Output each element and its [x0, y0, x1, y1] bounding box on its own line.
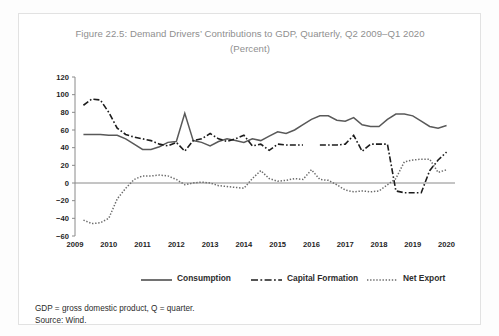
x-tick-label: 2015	[269, 240, 287, 249]
figure-page: Figure 22.5: Demand Drivers’ Contributio…	[0, 0, 499, 336]
x-tick-label: 2010	[100, 240, 117, 249]
footnote-definitions: GDP = gross domestic product, Q = quarte…	[35, 303, 195, 315]
figure-title-line2: (Percent)	[230, 43, 270, 54]
y-tick-label: 60	[61, 126, 69, 135]
legend-swatch-net-export	[367, 278, 398, 281]
y-tick-label: −20	[56, 196, 69, 205]
x-tick-label: 2014	[235, 240, 253, 249]
x-tick-label: 2011	[134, 240, 151, 249]
y-tick-label: 120	[56, 73, 69, 82]
y-tick-label: 0	[65, 179, 69, 188]
x-tick-label: 2012	[168, 240, 185, 249]
y-tick-label: 40	[61, 143, 69, 152]
footnote-source: Source: Wind.	[35, 315, 195, 327]
series-line-capital-formation	[83, 99, 303, 151]
legend-label-net-export: Net Export	[403, 273, 445, 283]
x-tick-label: 2013	[202, 240, 219, 249]
y-tick-label: 100	[56, 90, 69, 99]
x-tick-label: 2018	[371, 240, 388, 249]
series-line-consumption	[83, 113, 446, 149]
legend-swatch-consumption	[141, 278, 172, 281]
x-tick-label: 2019	[404, 240, 421, 249]
y-tick-label: 20	[61, 161, 69, 170]
figure-title: Figure 22.5: Demand Drivers’ Contributio…	[35, 27, 465, 56]
legend-label-consumption: Consumption	[177, 273, 231, 283]
series-line-capital-formation	[320, 135, 447, 192]
chart-svg: −60−40−200204060801001202009201020112012…	[31, 67, 471, 262]
x-tick-label: 2016	[303, 240, 320, 249]
chart-legend: Consumption Capital Formation Net Export	[35, 272, 467, 290]
legend-swatch-capital-formation	[251, 278, 282, 281]
figure-card: Figure 22.5: Demand Drivers’ Contributio…	[18, 13, 481, 325]
chart-plot-area: −60−40−200204060801001202009201020112012…	[31, 67, 471, 262]
x-tick-label: 2017	[337, 240, 354, 249]
figure-title-line1: Figure 22.5: Demand Drivers’ Contributio…	[75, 28, 424, 39]
x-tick-label: 2009	[67, 240, 84, 249]
figure-footnotes: GDP = gross domestic product, Q = quarte…	[35, 303, 195, 326]
x-tick-label: 2020	[438, 240, 455, 249]
y-tick-label: 80	[61, 108, 69, 117]
legend-label-capital-formation: Capital Formation	[287, 273, 358, 283]
y-tick-label: −40	[56, 214, 69, 223]
